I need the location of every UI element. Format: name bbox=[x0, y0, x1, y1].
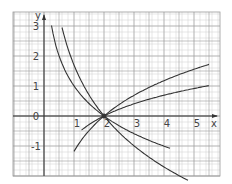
x-tick-label: 3 bbox=[134, 118, 140, 129]
y-tick-label: -1 bbox=[31, 141, 41, 152]
x-tick-label: 4 bbox=[164, 118, 170, 129]
intersection-point bbox=[102, 114, 107, 119]
y-axis-arrow-icon bbox=[42, 14, 46, 20]
x-tick-label: 1 bbox=[74, 118, 80, 129]
x-tick-label: 5 bbox=[194, 118, 200, 129]
graph-paper-chart: 123453210-1xy bbox=[0, 0, 232, 184]
x-axis-label: x bbox=[211, 118, 217, 129]
chart-canvas: 123453210-1xy bbox=[0, 0, 232, 184]
y-tick-label: 2 bbox=[33, 51, 39, 62]
y-tick-label: 1 bbox=[33, 81, 39, 92]
curve-increasing-shallow bbox=[82, 86, 210, 130]
y-tick-label: 0 bbox=[33, 111, 39, 122]
y-tick-label: 3 bbox=[33, 21, 39, 32]
y-axis-label: y bbox=[35, 10, 41, 21]
